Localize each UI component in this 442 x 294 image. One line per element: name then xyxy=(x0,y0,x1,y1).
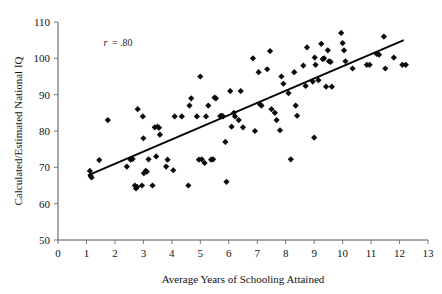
x-tick-label: 9 xyxy=(311,247,317,259)
x-tick-label: 0 xyxy=(55,247,61,259)
x-tick-label: 13 xyxy=(423,247,435,259)
scatter-plot-figure: 5060708090100110 012345678910111213 r = … xyxy=(0,0,442,294)
x-tick-label: 11 xyxy=(366,247,377,259)
x-tick-label: 8 xyxy=(283,247,289,259)
x-tick-label: 4 xyxy=(169,247,175,259)
correlation-value: = .80 xyxy=(109,37,132,48)
x-tick-label: 10 xyxy=(337,247,349,259)
x-tick-label: 7 xyxy=(254,247,260,259)
y-tick-label: 90 xyxy=(39,89,51,101)
x-tick-label: 1 xyxy=(84,247,90,259)
x-axis-title: Average Years of Schooling Attained xyxy=(162,273,325,285)
y-tick-label: 110 xyxy=(34,16,51,28)
chart-canvas: 5060708090100110 012345678910111213 r = … xyxy=(0,0,442,294)
y-tick-label: 80 xyxy=(39,125,51,137)
correlation-symbol: r xyxy=(104,37,108,48)
x-tick-label: 3 xyxy=(141,247,147,259)
x-tick-label: 6 xyxy=(226,247,232,259)
y-tick-label: 50 xyxy=(39,234,51,246)
y-tick-label: 100 xyxy=(34,52,51,64)
x-tick-label: 2 xyxy=(112,247,118,259)
y-axis-title: Calculated/Estimated National IQ xyxy=(12,56,24,205)
x-tick-label: 12 xyxy=(394,247,405,259)
x-tick-label: 5 xyxy=(198,247,204,259)
y-tick-label: 60 xyxy=(39,198,51,210)
y-tick-label: 70 xyxy=(39,161,51,173)
